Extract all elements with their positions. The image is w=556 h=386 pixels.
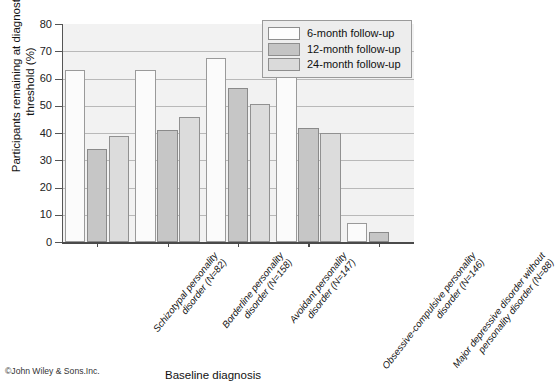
x-axis-tick-mark [308,242,309,247]
y-axis-tick-label: 50 [26,100,52,111]
y-axis-tick-label: 80 [26,19,52,30]
legend-swatch [268,43,300,56]
x-axis-category-label: Avoidant personalitydisorder (N=147) [287,250,358,332]
y-axis-tick-label: 20 [26,182,52,193]
legend-label: 6-month follow-up [307,28,394,39]
x-axis-category-label: Schizotypal personalitydisorder (N=82) [151,250,229,341]
y-axis-tick-label: 30 [26,155,52,166]
y-axis-tick-mark [55,242,62,243]
bar [369,232,390,242]
y-axis-tick-mark [55,188,62,189]
bar [228,88,249,242]
y-axis-tick-mark [55,24,62,25]
bar [206,58,227,242]
y-axis-tick-mark [55,215,62,216]
y-axis-tick-label: 70 [26,46,52,57]
legend-swatch [268,27,300,40]
y-axis-tick-mark [55,51,62,52]
bar [179,117,200,242]
y-axis-tick-mark [55,79,62,80]
y-axis-tick-label: 10 [26,209,52,220]
x-axis-tick-mark [238,242,239,247]
y-axis-tick-label: 40 [26,128,52,139]
legend-label: 24-month follow-up [307,59,401,70]
x-axis-tick-mark [168,242,169,247]
legend-label: 12-month follow-up [307,44,401,55]
legend-item: 6-month follow-up [268,27,406,41]
bar [276,70,297,242]
legend: 6-month follow-up12-month follow-up24-mo… [262,20,412,78]
x-axis-tick-mark [97,242,98,247]
bar [298,128,319,242]
y-axis-tick-label: 0 [26,237,52,248]
legend-item: 24-month follow-up [268,58,406,72]
y-axis-tick-label: 60 [26,73,52,84]
gridline [63,79,414,80]
bar [109,136,130,242]
copyright-notice: ©John Wiley & Sons.Inc. [5,366,100,376]
y-axis-tick-mark [55,160,62,161]
legend-item: 12-month follow-up [268,42,406,56]
y-axis-tick-mark [55,133,62,134]
bar [347,223,368,242]
bar [157,130,178,242]
bar [135,70,156,242]
bar [320,133,341,242]
bar [87,149,108,242]
bar [250,104,271,242]
x-axis-tick-mark [379,242,380,247]
y-axis-tick-mark [55,106,62,107]
x-axis-category-label: Borderline personalitydisorder (N=158) [219,250,294,337]
bar [65,70,86,242]
legend-swatch [268,58,300,71]
